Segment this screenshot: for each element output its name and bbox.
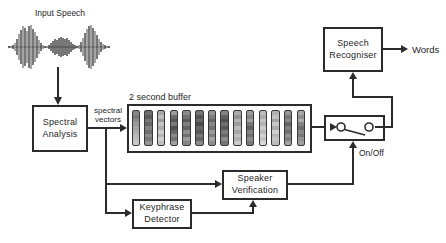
arrowhead-down-spectral [54,97,62,105]
connector-recogniser-to-words [383,48,401,50]
connector-switch-out-v [391,96,393,128]
spectral-vector-bar [208,110,217,146]
spectral-vectors-line1: spectral [94,106,122,115]
connector-verification-to-switch-h [288,183,354,185]
spectral-vector-bars [129,106,310,151]
speech-waveform [8,24,110,70]
connector-keyphrase-to-verification-v [252,207,254,214]
spectral-vectors-line2: vectors [95,115,121,124]
arrowhead-switch-control [349,141,357,148]
spectral-vector-bar [144,110,153,146]
spectral-vector-bar [297,110,306,146]
speaker-verification-box: Speaker Verification [222,170,288,200]
arrowhead-verification-bottom-input [249,200,257,207]
connector-to-recogniser-h [352,96,393,98]
spectral-vector-bar [246,110,255,146]
spectral-vector-bar [271,110,280,146]
on-off-label: On/Off [359,148,384,158]
spectral-vector-bar [233,110,242,146]
arrowhead-speaker-verification-input [215,180,222,188]
connector-junction-to-keyphrase [105,212,125,214]
keyphrase-detector-box: Keyphrase Detector [132,199,192,229]
spectral-analysis-label-line1: Spectral [43,117,78,129]
arrowhead-keyphrase-input [125,209,132,217]
connector-to-recogniser-v [352,79,354,97]
spectral-vector-bar [220,110,229,146]
spectral-vector-bar [284,110,293,146]
input-speech-label: Input Speech [35,8,85,18]
arrowhead-buffer-input [120,124,127,132]
arrowhead-recogniser-input [349,72,357,79]
connector-wave-to-spectral [57,67,59,98]
buffer-box [127,104,312,153]
spectral-vector-bar [157,110,166,146]
speech-recognition-block-diagram: Input Speech Spectral Analysis spectral … [0,0,446,243]
buffer-title-label: 2 second buffer [129,92,191,102]
keyphrase-detector-label-line2: Detector [144,214,180,226]
spectral-vectors-label: spectral vectors [90,106,126,124]
speech-recogniser-label-line1: Speech [337,38,369,50]
words-label: Words [412,44,439,55]
connector-keyphrase-to-verification-h [192,212,254,214]
spectral-vector-bar [182,110,191,146]
connector-spectral-to-buffer [88,127,120,129]
spectral-vector-bar [170,110,179,146]
arrowhead-words [401,45,408,53]
spectral-vector-bar [132,110,141,146]
speech-recogniser-box: Speech Recogniser [323,27,383,72]
keyphrase-detector-label-line1: Keyphrase [140,202,185,214]
connector-junction-vertical [105,128,107,214]
connector-junction-to-speaker-verification [105,183,215,185]
arrowhead-switch-input [330,123,337,131]
speaker-verification-label-line1: Speaker [238,173,273,185]
spectral-vector-bar [195,110,204,146]
speech-recogniser-label-line2: Recogniser [329,50,377,62]
spectral-vector-bar [259,110,268,146]
spectral-analysis-label-line2: Analysis [42,129,77,141]
speaker-verification-label-line2: Verification [232,185,278,197]
spectral-analysis-box: Spectral Analysis [32,105,88,152]
connector-verification-to-switch-v [352,148,354,185]
